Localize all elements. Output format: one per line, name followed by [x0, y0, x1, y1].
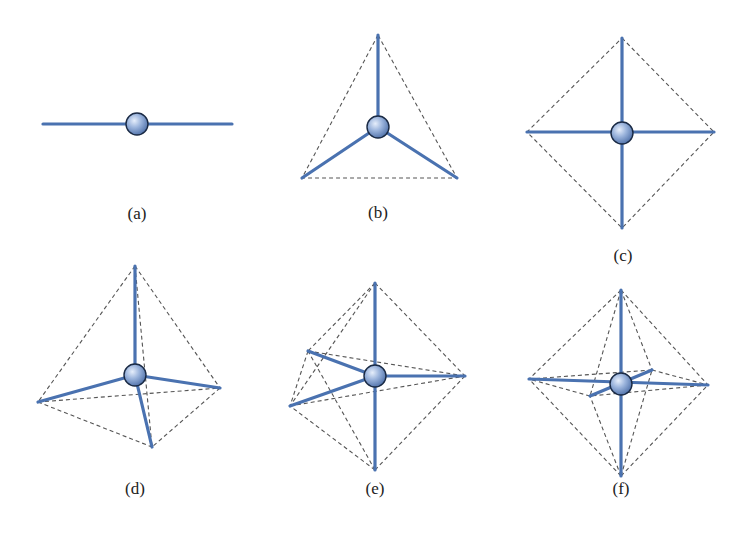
central-atom [611, 122, 633, 144]
central-atom [367, 116, 389, 138]
central-atom [126, 113, 148, 135]
panel-e-trigonal-bipyramidal: (e) [290, 283, 465, 498]
panel-label-d: (d) [125, 479, 145, 498]
central-atom [124, 364, 146, 386]
bond [302, 127, 378, 178]
panel-a-linear: (a) [43, 113, 232, 223]
bond [38, 375, 135, 402]
panel-label-a: (a) [128, 204, 147, 223]
panel-label-f: (f) [613, 479, 630, 498]
panel-label-b: (b) [368, 203, 388, 222]
panel-b-trigonal-planar: (b) [302, 35, 457, 222]
panel-label-e: (e) [366, 479, 385, 498]
panel-f-octahedral: (f) [529, 290, 708, 498]
central-atom [610, 373, 632, 395]
geometry-figure: (a) (b) (c) (d) [0, 0, 745, 546]
bond [378, 127, 457, 178]
panel-c-square-planar: (c) [527, 38, 714, 265]
central-atom [364, 365, 386, 387]
panel-label-c: (c) [614, 246, 633, 265]
bond [290, 376, 375, 406]
bond [135, 375, 220, 388]
panel-d-tetrahedral: (d) [38, 266, 220, 498]
